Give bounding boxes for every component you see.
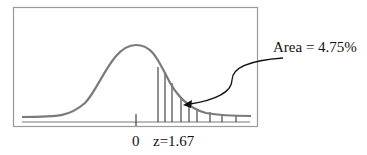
normal-curve (22, 45, 251, 117)
annotation-arrow (190, 58, 283, 104)
zero-label: 0 (132, 133, 140, 149)
shaded-tail-hatching (158, 67, 236, 122)
area-annotation: Area = 4.75% (273, 39, 357, 55)
chart-frame (14, 8, 258, 127)
z-value-label: z=1.67 (153, 133, 195, 149)
normal-distribution-diagram: 0 z=1.67 Area = 4.75% (0, 0, 367, 155)
